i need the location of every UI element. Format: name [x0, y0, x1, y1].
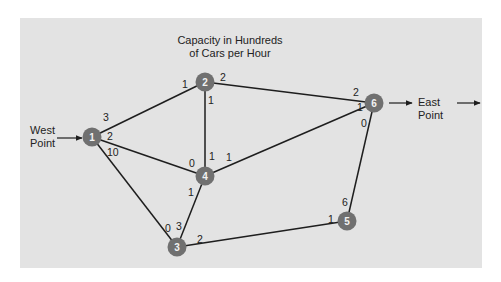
node-6: 6: [365, 94, 384, 113]
edge-4-6: [205, 103, 374, 176]
cap-2-6-at-6: 2: [353, 86, 359, 98]
node-5: 5: [338, 212, 357, 231]
cap-1-3-at-1: 10: [107, 146, 119, 158]
cap-2-6-at-2: 2: [220, 71, 226, 83]
cap-1-4-at-4: 0: [189, 157, 195, 169]
cap-1-2-at-2: 1: [182, 78, 188, 90]
cap-4-6-at-4: 1: [226, 151, 232, 163]
cap-5-6-at-5: 6: [342, 196, 348, 208]
node-2: 2: [196, 73, 215, 92]
cap-1-3-at-3: 0: [165, 222, 171, 234]
cap-4-3-at-3: 3: [176, 220, 182, 232]
cap-4-6-at-6: 1: [357, 101, 363, 113]
cap-4-3-at-4: 1: [188, 186, 194, 198]
node-3: 3: [168, 238, 187, 257]
node-2-label: 2: [202, 77, 208, 88]
cap-1-4-at-1: 2: [107, 130, 113, 142]
edge-2-6: [205, 82, 374, 103]
node-4: 4: [196, 167, 215, 186]
cap-1-2-at-1: 3: [103, 111, 109, 123]
cap-3-5-at-5: 1: [328, 213, 334, 225]
cap-2-4-at-2: 1: [208, 94, 214, 106]
node-4-label: 4: [202, 171, 208, 182]
node-1: 1: [83, 128, 102, 147]
node-1-label: 1: [89, 132, 95, 143]
edge-1-2: [92, 82, 205, 137]
node-6-label: 6: [371, 98, 377, 109]
network-graph: 3 1 2 0 10 0 2 2 1 1 1 1 1 3 2 1 6 0 1 2…: [0, 0, 501, 282]
node-5-label: 5: [344, 216, 350, 227]
cap-5-6-at-6: 0: [361, 117, 367, 129]
node-3-label: 3: [174, 242, 180, 253]
cap-3-5-at-3: 2: [197, 233, 203, 245]
cap-2-4-at-4: 1: [209, 150, 215, 162]
